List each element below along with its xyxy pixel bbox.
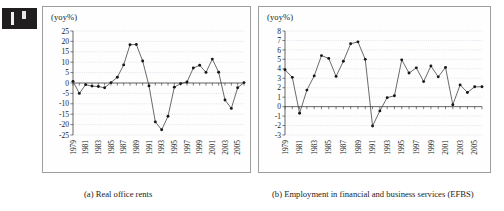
figure-root: (yoy%) 2520151050-5-10-15-20-25197919811…	[0, 0, 504, 211]
svg-text:3: 3	[277, 74, 281, 83]
svg-text:1981: 1981	[295, 140, 304, 155]
chart-panel-b: (yoy%) 876543210-1-2-3197919811983198519…	[258, 6, 491, 173]
svg-text:2001: 2001	[208, 140, 217, 155]
svg-text:1999: 1999	[427, 140, 436, 155]
svg-text:2003: 2003	[221, 140, 230, 155]
svg-text:1979: 1979	[69, 140, 78, 155]
svg-text:6: 6	[277, 46, 281, 55]
svg-text:1999: 1999	[195, 140, 204, 155]
svg-text:-15: -15	[59, 110, 69, 119]
svg-text:20: 20	[61, 37, 69, 46]
svg-text:0: 0	[65, 79, 69, 88]
svg-text:1997: 1997	[412, 140, 421, 155]
caption-a: (a) Real office rents	[84, 189, 152, 199]
svg-text:-1: -1	[275, 112, 282, 121]
svg-text:5: 5	[277, 55, 281, 64]
plot-area-b: 876543210-1-2-31979198119831985198719891…	[259, 7, 490, 171]
svg-text:7: 7	[277, 36, 281, 45]
svg-text:1987: 1987	[339, 140, 348, 155]
caption-b: (b) Employment in financial and business…	[272, 189, 474, 199]
svg-text:2005: 2005	[233, 140, 242, 155]
svg-text:1991: 1991	[145, 140, 154, 155]
svg-text:2001: 2001	[441, 140, 450, 155]
svg-text:1983: 1983	[94, 140, 103, 155]
svg-text:1985: 1985	[324, 140, 333, 155]
svg-text:1989: 1989	[354, 140, 363, 155]
scan-edge-artifact	[2, 8, 37, 29]
svg-text:-3: -3	[275, 131, 282, 140]
svg-text:1997: 1997	[183, 140, 192, 155]
svg-text:15: 15	[61, 47, 69, 56]
chart-panel-a: (yoy%) 2520151050-5-10-15-20-25197919811…	[42, 6, 251, 173]
svg-text:1985: 1985	[107, 140, 116, 155]
svg-text:-2: -2	[275, 121, 282, 130]
svg-text:1987: 1987	[119, 140, 128, 155]
svg-text:-20: -20	[59, 120, 69, 129]
svg-text:10: 10	[61, 58, 69, 67]
svg-text:25: 25	[61, 27, 69, 36]
svg-text:1: 1	[277, 93, 281, 102]
svg-text:1991: 1991	[368, 140, 377, 155]
svg-text:1993: 1993	[383, 140, 392, 155]
svg-text:1981: 1981	[81, 140, 90, 155]
svg-text:1995: 1995	[397, 140, 406, 155]
svg-text:5: 5	[65, 68, 69, 77]
svg-text:1979: 1979	[281, 140, 290, 155]
svg-text:4: 4	[277, 64, 281, 73]
svg-text:-25: -25	[59, 131, 69, 140]
chart-svg-b: 876543210-1-2-31979198119831985198719891…	[259, 7, 490, 171]
svg-text:2: 2	[277, 83, 281, 92]
svg-text:1989: 1989	[132, 140, 141, 155]
svg-text:-10: -10	[59, 99, 69, 108]
chart-svg-a: 2520151050-5-10-15-20-251979198119831985…	[43, 7, 250, 171]
svg-text:8: 8	[277, 27, 281, 36]
svg-text:2003: 2003	[456, 140, 465, 155]
svg-text:2005: 2005	[470, 140, 479, 155]
svg-text:1995: 1995	[170, 140, 179, 155]
plot-area-a: 2520151050-5-10-15-20-251979198119831985…	[43, 7, 250, 171]
svg-text:-5: -5	[63, 89, 70, 98]
svg-text:0: 0	[277, 102, 281, 111]
svg-text:1983: 1983	[310, 140, 319, 155]
svg-text:1993: 1993	[157, 140, 166, 155]
